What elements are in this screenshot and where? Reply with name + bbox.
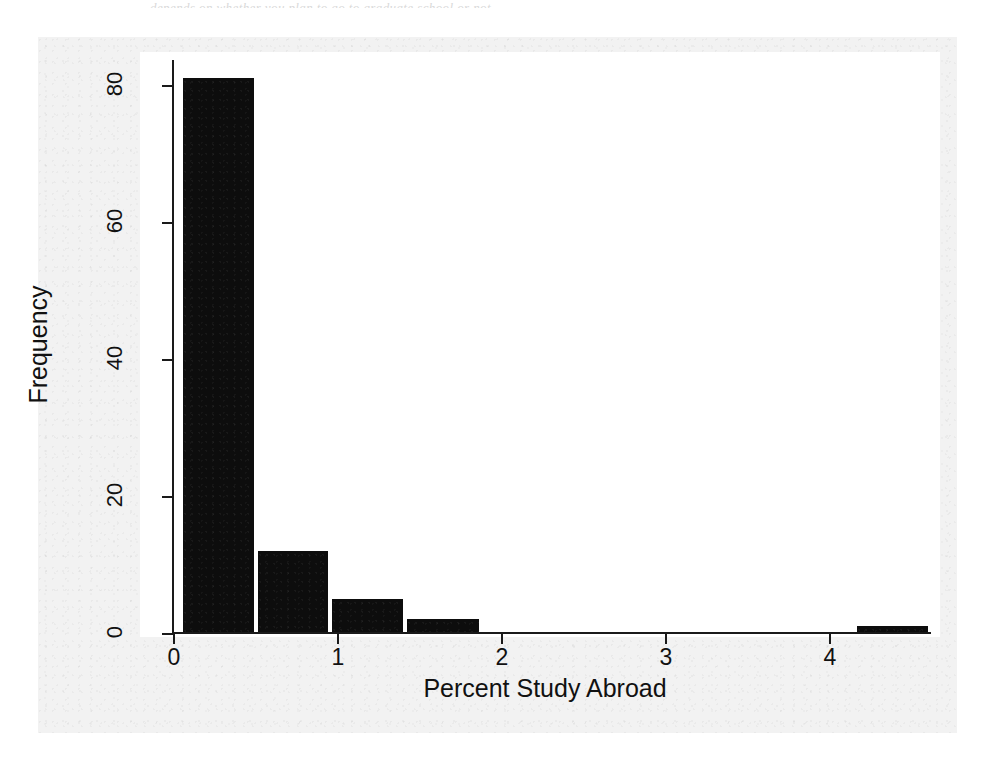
histogram-bar	[183, 78, 254, 633]
y-axis-line	[172, 60, 174, 635]
y-axis-tick	[162, 633, 173, 635]
y-axis-tick-label: 80	[102, 54, 128, 114]
y-axis-tick	[162, 222, 173, 224]
x-axis-tick	[829, 633, 831, 644]
histogram-bar	[258, 551, 328, 633]
y-axis-tick-label: 40	[102, 328, 128, 388]
x-axis-tick-label: 0	[154, 644, 194, 671]
histogram-bar	[407, 619, 478, 633]
x-axis-tick-label: 3	[646, 644, 686, 671]
y-axis-tick-label: 60	[102, 191, 128, 251]
y-axis-tick	[162, 359, 173, 361]
y-axis-tick	[162, 496, 173, 498]
y-axis-tick-label: 20	[102, 465, 128, 525]
x-axis-tick	[501, 633, 503, 644]
x-axis-tick-label: 2	[482, 644, 522, 671]
x-axis-tick	[665, 633, 667, 644]
plot-area	[140, 52, 940, 637]
x-axis-line	[172, 632, 931, 634]
figure-page: depends on whether you plan to go to gra…	[0, 0, 996, 759]
x-axis-tick-label: 4	[810, 644, 850, 671]
cut-off-header-text: depends on whether you plan to go to gra…	[150, 0, 850, 8]
y-axis-tick-label: 0	[102, 602, 128, 662]
x-axis-title: Percent Study Abroad	[345, 674, 745, 703]
y-axis-tick	[162, 85, 173, 87]
y-axis-title: Frequency	[24, 265, 53, 425]
x-axis-tick-label: 1	[318, 644, 358, 671]
histogram-bar	[332, 599, 403, 633]
x-axis-tick	[337, 633, 339, 644]
x-axis-tick	[173, 633, 175, 644]
